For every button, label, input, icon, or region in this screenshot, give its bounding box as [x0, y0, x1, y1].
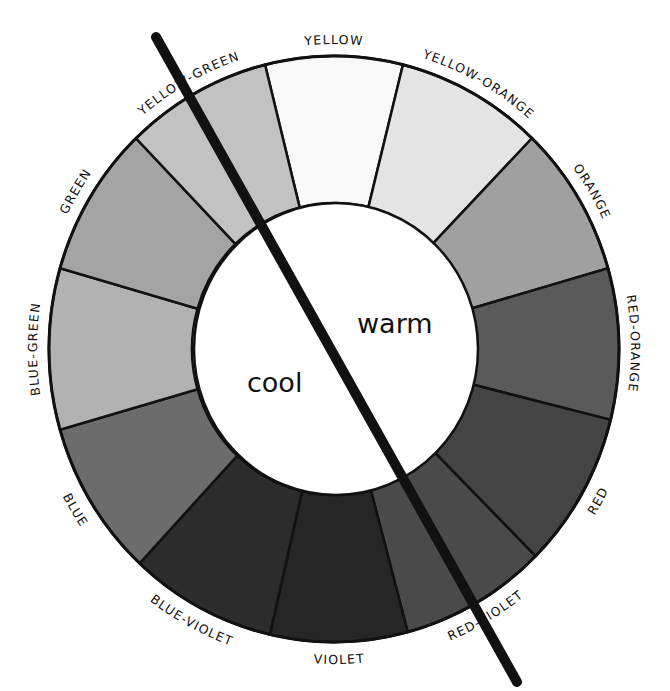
cool-label: cool	[247, 367, 302, 398]
warm-label: warm	[357, 308, 433, 339]
label-violet: VIOLET	[313, 650, 365, 667]
color-wheel-diagram: YELLOWYELLOW-ORANGEORANGERED-ORANGEREDRE…	[0, 0, 670, 691]
label-red-orange: RED-ORANGE	[623, 294, 643, 394]
label-yellow: YELLOW	[303, 32, 364, 49]
label-blue-green: BLUE-GREEN	[25, 301, 43, 396]
label-red: RED	[584, 484, 611, 517]
